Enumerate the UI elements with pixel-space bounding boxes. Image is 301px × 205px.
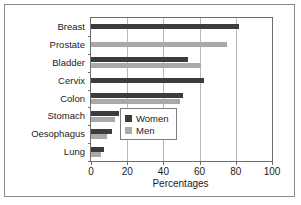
bar-women-bladder bbox=[91, 57, 188, 62]
bar-women-breast bbox=[91, 24, 239, 29]
chart-legend: Women Men bbox=[120, 108, 177, 140]
bar-men-oesophagus bbox=[91, 134, 107, 139]
y-axis-category-label: Breast bbox=[58, 18, 85, 36]
bar-women-colon bbox=[91, 93, 183, 98]
bar-men-stomach bbox=[91, 117, 115, 122]
legend-item-women: Women bbox=[125, 112, 169, 124]
chart-row: Stomach bbox=[91, 107, 272, 125]
y-axis-category-label: Colon bbox=[60, 90, 85, 108]
bar-men-prostate bbox=[91, 42, 227, 47]
chart-row: Oesophagus bbox=[91, 125, 272, 143]
bar-men-colon bbox=[91, 99, 180, 104]
x-axis-tick-label: 20 bbox=[122, 166, 133, 177]
chart-row: Breast bbox=[91, 18, 272, 36]
y-axis-category-label: Stomach bbox=[48, 107, 86, 125]
bar-women-lung bbox=[91, 147, 104, 152]
chart-row: Colon bbox=[91, 90, 272, 108]
x-axis-tick bbox=[236, 161, 237, 165]
y-axis-category-label: Bladder bbox=[52, 54, 85, 72]
legend-swatch-men bbox=[125, 127, 132, 134]
chart-row: Lung bbox=[91, 143, 272, 161]
x-axis-tick bbox=[200, 161, 201, 165]
y-axis-category-label: Prostate bbox=[50, 36, 85, 54]
chart-row: Prostate bbox=[91, 36, 272, 54]
chart-frame: 020406080100BreastProstateBladderCervixC… bbox=[4, 4, 295, 197]
y-axis-tick bbox=[88, 161, 91, 162]
chart-row: Bladder bbox=[91, 54, 272, 72]
legend-item-men: Men bbox=[125, 124, 169, 136]
legend-label-women: Women bbox=[136, 113, 169, 124]
bar-women-stomach bbox=[91, 111, 119, 116]
x-axis-tick bbox=[91, 161, 92, 165]
chart-row: Cervix bbox=[91, 72, 272, 90]
x-axis-tick-label: 80 bbox=[230, 166, 241, 177]
x-axis-tick bbox=[127, 161, 128, 165]
x-axis-tick-label: 40 bbox=[158, 166, 169, 177]
x-axis-tick-label: 60 bbox=[194, 166, 205, 177]
legend-label-men: Men bbox=[136, 125, 154, 136]
y-axis-category-label: Oesophagus bbox=[31, 125, 85, 143]
bar-women-cervix bbox=[91, 78, 204, 83]
x-axis-tick bbox=[163, 161, 164, 165]
bar-women-oesophagus bbox=[91, 129, 112, 134]
y-axis-category-label: Cervix bbox=[58, 72, 85, 90]
x-axis-tick-label: 0 bbox=[88, 166, 94, 177]
x-axis-title: Percentages bbox=[90, 178, 271, 189]
bar-men-bladder bbox=[91, 63, 201, 68]
y-axis-category-label: Lung bbox=[64, 143, 85, 161]
bar-men-lung bbox=[91, 152, 101, 157]
legend-swatch-women bbox=[125, 115, 132, 122]
x-axis-tick-label: 100 bbox=[264, 166, 281, 177]
x-axis-tick bbox=[272, 161, 273, 165]
plot-area: 020406080100BreastProstateBladderCervixC… bbox=[90, 17, 273, 162]
